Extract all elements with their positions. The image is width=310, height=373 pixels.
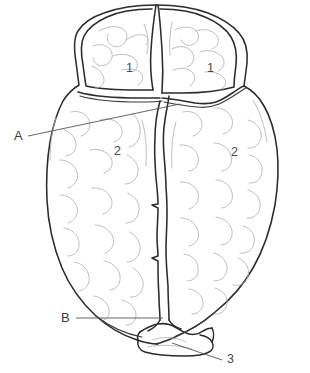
gyrus-frontal-right-1: [175, 27, 198, 45]
gyrus-left-hemi-12: [95, 225, 114, 253]
gyrus-right-hemi-17: [214, 288, 227, 314]
gyrus-right-hemi-11: [216, 217, 232, 245]
gyrus-left-hemi-14: [74, 262, 89, 291]
label-b: B: [61, 311, 70, 324]
gyrus-right-hemi-14: [214, 253, 227, 281]
gyrus-frontal-right-5: [173, 68, 195, 86]
leader-lines-group: [28, 104, 222, 360]
label-3-cerebellum: 3: [227, 353, 234, 366]
frontal-lobe-right-inferior-border: [162, 86, 244, 104]
gyrus-right-hemi-8: [216, 180, 232, 208]
gyrus-left-hemi-2: [64, 130, 76, 156]
label-2-hemisphere-left: 2: [114, 145, 121, 158]
gyrus-frontal-left-3: [93, 45, 112, 66]
gyrus-left-hemi-18: [122, 300, 136, 325]
gyrus-right-hemi-1: [183, 111, 202, 136]
longitudinal-fissure-frontal-right: [158, 5, 163, 93]
gyrus-left-hemi-20: [142, 120, 146, 166]
gyrus-right-hemi-5: [214, 143, 232, 171]
gyrus-right-hemi-4: [180, 145, 199, 171]
gyrus-right-hemi-9: [247, 190, 260, 218]
gyrus-frontal-right-3: [172, 47, 194, 67]
longitudinal-fissure-left-bank: [152, 101, 160, 320]
gyrus-left-hemi-6: [90, 149, 112, 173]
cerebellum-right-side: [212, 328, 214, 342]
gyrus-right-hemi-16: [189, 289, 203, 314]
gyrus-right-hemi-19: [172, 122, 176, 168]
gyrus-left-hemi-3: [100, 119, 122, 142]
gyrus-left-hemi-7: [125, 155, 138, 184]
gyrus-left-hemi-16: [130, 268, 143, 297]
gyrus-frontal-right-2: [196, 30, 218, 49]
gyrus-left-hemi-9: [92, 188, 112, 214]
right-hemisphere-outline: [156, 5, 278, 344]
gyrus-right-hemi-12: [240, 226, 254, 253]
gyrus-left-hemi-4: [129, 113, 140, 147]
gyrus-right-hemi-6: [249, 155, 262, 183]
gyrus-left-hemi-13: [127, 232, 140, 262]
gyrus-right-hemi-10: [181, 218, 199, 246]
longitudinal-fissure-group: [152, 96, 169, 320]
frontal-lobe-left-inferior-border: [78, 92, 160, 98]
label-a: A: [14, 129, 23, 142]
longitudinal-fissure-frontal-left: [151, 5, 156, 90]
brain-illustration: [0, 0, 310, 373]
gyrus-right-hemi-7: [180, 182, 199, 209]
gyrus-left-hemi-11: [64, 228, 79, 256]
occipital-edge-right: [176, 313, 214, 336]
gyrus-right-hemi-3: [248, 120, 261, 148]
gyrus-left-hemi-15: [104, 261, 120, 290]
gyrus-frontal-left-1: [99, 27, 127, 47]
longitudinal-fissure-right-bank: [163, 96, 169, 320]
left-hemisphere-outline: [47, 5, 158, 344]
gyrus-frontal-left-2: [126, 35, 148, 45]
gyrus-left-hemi-19: [50, 118, 56, 160]
gyrus-left-hemi-5: [60, 160, 78, 188]
frontal-lobe-left-outline: [81, 9, 153, 90]
label-1-frontal-right: 1: [207, 62, 214, 75]
cerebellum-group: [138, 320, 214, 356]
label-2-hemisphere-right: 2: [231, 146, 238, 159]
gyrus-frontal-right-7: [170, 22, 172, 55]
gyrus-right-hemi-13: [184, 254, 198, 281]
leader-line-3: [172, 343, 222, 360]
anatomical-diagram: A B 3 1 1 2 2: [0, 0, 310, 373]
gyrus-frontal-left-7: [144, 24, 148, 54]
gyrus-left-hemi-10: [126, 193, 139, 223]
gyrus-frontal-left-5: [92, 66, 104, 88]
leader-line-a: [28, 104, 180, 136]
label-1-frontal-left: 1: [126, 62, 133, 75]
gyrus-left-hemi-8: [60, 195, 78, 223]
gyrus-right-hemi-15: [233, 258, 249, 286]
gyrus-right-hemi-2: [214, 108, 233, 134]
